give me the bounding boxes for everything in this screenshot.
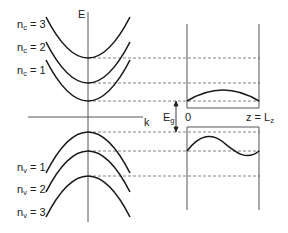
label-nc3: nc = 3	[17, 18, 46, 32]
valence-wavefunction	[187, 136, 259, 155]
energy-axis-label: E	[78, 8, 85, 20]
label-nc1: nc = 1	[17, 64, 46, 78]
quantum-well-subband-diagram: E k nc = 3 nc = 2 nc = 1 nv = 1 nv = 2 n…	[0, 0, 288, 233]
label-nv3: nv = 3	[17, 206, 46, 220]
bandgap-label: Eg	[163, 111, 175, 125]
conduction-ground-wavefunction	[187, 90, 259, 101]
well-left-label: 0	[185, 111, 191, 123]
k-axis-label: k	[144, 116, 150, 128]
label-nv1: nv = 1	[17, 161, 46, 175]
well-right-label: z = Lz	[246, 111, 274, 125]
label-nv2: nv = 2	[17, 183, 46, 197]
bandgap-arrow	[174, 101, 178, 132]
label-nc2: nc = 2	[17, 41, 46, 55]
